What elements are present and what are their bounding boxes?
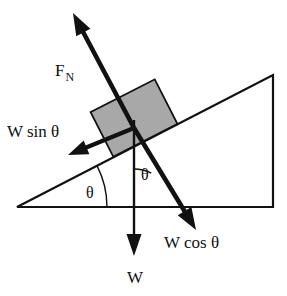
normal-force-label: FN: [55, 61, 74, 84]
normal-force-arrow-head: [73, 13, 90, 36]
diagram-labels: FN W sin θ W cos θ W θ θ: [7, 61, 219, 287]
wcos-label: W cos θ: [164, 233, 219, 252]
upper-angle-label: θ: [141, 166, 149, 183]
weight-label: W: [127, 268, 144, 287]
diagram-canvas: FN W sin θ W cos θ W θ θ: [0, 0, 287, 296]
wsin-label: W sin θ: [7, 122, 59, 141]
wsin-arrow-head: [68, 140, 89, 155]
weight-arrow-head: [127, 234, 142, 256]
normal-force-label-main: F: [55, 61, 64, 80]
normal-force-label-subscript: N: [65, 70, 74, 84]
force-diagram-figure: FN W sin θ W cos θ W θ θ: [0, 0, 287, 296]
base-angle-label: θ: [86, 184, 94, 201]
wcos-arrow-head: [178, 207, 196, 230]
base-angle-arc: [97, 166, 107, 207]
